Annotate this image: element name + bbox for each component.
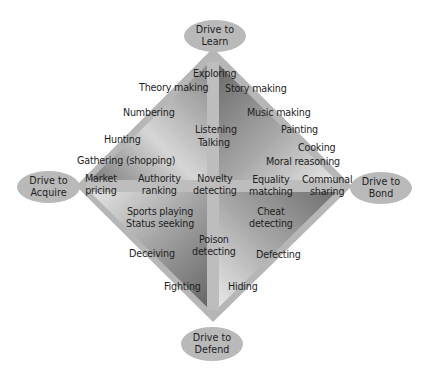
label-sports-playing: Sports playing xyxy=(127,206,193,217)
drive-acquire: Drive toAcquire xyxy=(17,171,80,203)
label-novelty-detecting-line2: detecting xyxy=(193,185,237,196)
label-cheat-detecting-line2: detecting xyxy=(249,218,293,229)
label-painting: Painting xyxy=(281,124,318,136)
label-sports-status: Sports playingStatus seeking xyxy=(126,206,194,230)
label-ranking: ranking xyxy=(142,185,177,196)
label-poison: Poison xyxy=(199,234,229,245)
drive-learn-line1: Drive to xyxy=(196,24,234,35)
label-hiding: Hiding xyxy=(228,281,258,293)
label-hunting: Hunting xyxy=(104,134,141,146)
four-drives-diagram: Drive toLearn Drive toAcquire Drive toBo… xyxy=(0,0,426,373)
label-talking: Talking xyxy=(198,137,230,149)
label-communal-sharing: Communalsharing xyxy=(302,174,352,198)
label-defecting: Defecting xyxy=(256,249,301,261)
label-pricing: pricing xyxy=(85,185,116,196)
label-sharing: sharing xyxy=(310,186,344,197)
label-cooking: Cooking xyxy=(298,142,335,154)
label-theory-making: Theory making xyxy=(139,82,208,94)
drive-learn-line2: Learn xyxy=(202,36,229,47)
drive-bond: Drive toBond xyxy=(350,172,412,204)
drive-learn: Drive toLearn xyxy=(184,20,246,52)
label-poison-detecting: Poisondetecting xyxy=(192,234,236,258)
drive-bond-line1: Drive to xyxy=(362,176,400,187)
drive-acquire-line1: Drive to xyxy=(29,175,67,186)
label-cheat: Cheat xyxy=(257,206,284,217)
label-market: Market xyxy=(85,173,117,184)
label-authority-ranking: Authorityranking xyxy=(138,173,181,197)
drive-bond-line2: Bond xyxy=(369,188,394,199)
label-matching: matching xyxy=(249,186,293,197)
drive-defend-line2: Defend xyxy=(195,344,230,355)
label-authority: Authority xyxy=(138,173,181,184)
label-equality-matching: Equalitymatching xyxy=(249,174,293,198)
drive-acquire-line2: Acquire xyxy=(30,187,66,198)
label-fighting: Fighting xyxy=(164,281,201,293)
label-novelty-detecting: Noveltydetecting xyxy=(193,173,237,197)
label-cheat-detecting: Cheatdetecting xyxy=(249,206,293,230)
label-numbering: Numbering xyxy=(123,107,175,119)
label-communal: Communal xyxy=(302,174,352,185)
label-listening: Listening xyxy=(195,124,237,136)
label-music-making: Music making xyxy=(247,107,311,119)
label-market-pricing: Marketpricing xyxy=(85,173,117,197)
label-story-making: Story making xyxy=(225,83,287,95)
label-deceiving: Deceiving xyxy=(129,248,175,260)
label-status-seeking: Status seeking xyxy=(126,218,194,229)
label-moral-reasoning: Moral reasoning xyxy=(266,156,340,168)
label-gathering: Gathering (shopping) xyxy=(77,155,175,167)
label-equality: Equality xyxy=(252,174,289,185)
label-exploring: Exploring xyxy=(193,68,236,80)
drive-defend: Drive toDefend xyxy=(181,327,243,361)
drive-defend-line1: Drive to xyxy=(193,332,231,343)
label-novelty: Novelty xyxy=(197,173,232,184)
label-poison-detecting-line2: detecting xyxy=(192,246,236,257)
